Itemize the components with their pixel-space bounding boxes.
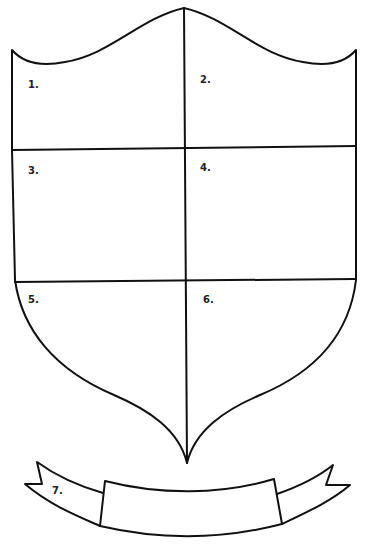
- section-label-4: 4.: [200, 162, 211, 173]
- section-label-1: 1.: [28, 79, 39, 90]
- vertical-divider: [184, 8, 187, 463]
- section-label-7: 7.: [52, 485, 63, 496]
- banner-center: [100, 479, 282, 536]
- section-label-2: 2.: [200, 74, 211, 85]
- banner-left-tail: [25, 462, 103, 526]
- section-label-3: 3.: [28, 165, 39, 176]
- shield-diagram: 1. 2. 3. 4. 5. 6. 7.: [0, 0, 367, 546]
- section-label-6: 6.: [203, 294, 214, 305]
- section-label-5: 5.: [28, 294, 39, 305]
- banner-right-tail: [277, 465, 350, 524]
